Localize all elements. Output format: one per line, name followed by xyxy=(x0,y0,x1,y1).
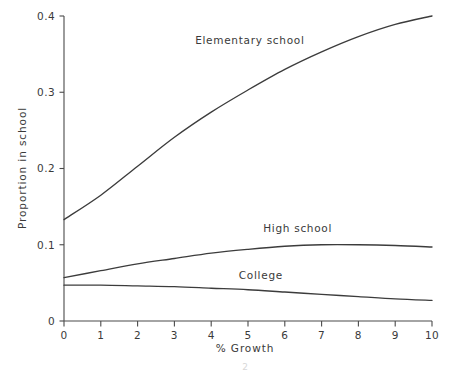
x-tick-label: 2 xyxy=(134,329,141,341)
x-axis-tick-labels: 012345678910 xyxy=(60,329,439,341)
x-axis-title: % Growth xyxy=(216,342,275,354)
series-label-college: College xyxy=(239,269,283,281)
x-tick-label: 6 xyxy=(281,329,288,341)
y-tick-label: 0.2 xyxy=(37,162,55,174)
chart-series-labels: Elementary schoolHigh schoolCollege xyxy=(195,34,332,281)
chart-series-curves xyxy=(64,16,432,300)
x-tick-label: 0 xyxy=(60,329,67,341)
y-tick-label: 0.1 xyxy=(37,239,55,251)
x-tick-label: 3 xyxy=(171,329,178,341)
x-tick-label: 5 xyxy=(244,329,251,341)
y-tick-label: 0.3 xyxy=(37,86,55,98)
x-tick-label: 9 xyxy=(392,329,399,341)
y-axis-title: Proportion in school xyxy=(16,107,28,229)
x-tick-label: 7 xyxy=(318,329,325,341)
y-tick-label: 0.4 xyxy=(37,10,55,22)
x-tick-label: 10 xyxy=(425,329,439,341)
series-label-elementary-school: Elementary school xyxy=(195,34,304,46)
y-tick-label: 0 xyxy=(48,315,55,327)
x-tick-label: 8 xyxy=(355,329,362,341)
series-line-college xyxy=(64,285,432,300)
series-label-high-school: High school xyxy=(263,222,332,234)
x-tick-label: 4 xyxy=(208,329,215,341)
figure-container: 00.10.20.30.4 012345678910 Elementary sc… xyxy=(0,0,460,372)
y-axis-tick-labels: 00.10.20.30.4 xyxy=(37,10,55,327)
x-tick-label: 1 xyxy=(97,329,104,341)
page-number-artifact: 2 xyxy=(242,362,248,372)
series-line-elementary-school xyxy=(64,16,432,220)
line-chart: 00.10.20.30.4 012345678910 Elementary sc… xyxy=(0,0,460,372)
